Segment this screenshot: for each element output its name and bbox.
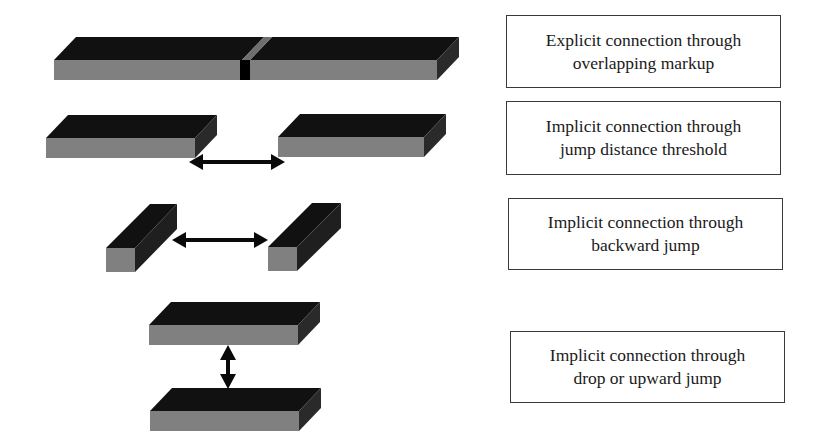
bar-upper: [149, 302, 320, 345]
label-line-2: drop or upward jump: [573, 367, 721, 390]
label-line-1: Implicit connection through: [550, 344, 745, 367]
label-implicit-backward-jump: Implicit connection through backward jum…: [508, 198, 783, 270]
bar-segment-right: [250, 37, 459, 80]
horizontal-double-arrow-icon: [189, 154, 285, 170]
label-implicit-drop-or-upward-jump: Implicit connection through drop or upwa…: [510, 331, 785, 403]
row-3-illustration: [106, 203, 341, 272]
vertical-double-arrow-icon: [220, 345, 236, 389]
bar-left: [46, 115, 217, 158]
bar-lower: [150, 388, 321, 431]
label-line-2: jump distance threshold: [560, 138, 727, 161]
label-line-1: Explicit connection through: [546, 29, 741, 52]
block-left: [106, 204, 177, 272]
label-explicit-overlapping-markup: Explicit connection through overlapping …: [506, 15, 781, 88]
row-1-illustration: [54, 37, 459, 80]
bar-segment-left: [54, 37, 264, 80]
row-4-illustration: [149, 302, 321, 431]
label-line-1: Implicit connection through: [546, 115, 741, 138]
label-line-2: overlapping markup: [573, 52, 714, 75]
row-2-illustration: [46, 114, 446, 170]
label-implicit-jump-distance-threshold: Implicit connection through jump distanc…: [506, 101, 781, 175]
bar-right: [278, 114, 446, 157]
label-line-2: backward jump: [591, 234, 699, 257]
block-right: [268, 203, 341, 271]
horizontal-double-arrow-icon: [172, 232, 268, 248]
label-line-1: Implicit connection through: [548, 211, 743, 234]
